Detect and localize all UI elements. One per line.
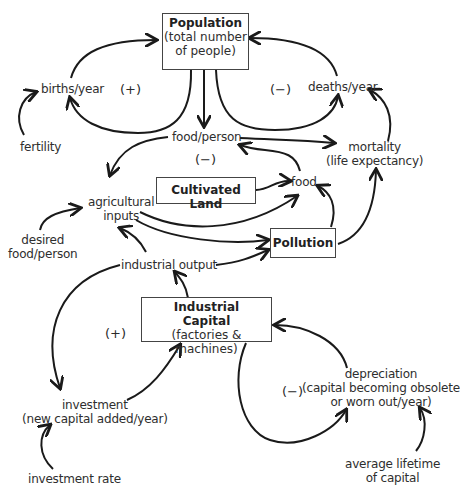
pollution-stock[interactable]: Pollution: [270, 228, 336, 258]
link-deaths-to-population: [250, 38, 337, 76]
average-lifetime-of-capital: average lifetime of capital: [345, 457, 440, 485]
agri-inputs-line-2: inputs: [103, 209, 139, 223]
link-desired-food-to-agri-inputs: [40, 208, 80, 230]
avg-lifetime-line-1: average lifetime: [345, 457, 440, 471]
industrial-output: industrial output: [121, 258, 217, 272]
industrial-capital-title-1: Industrial: [142, 300, 271, 314]
link-cultivated-land-to-food: [256, 181, 290, 190]
link-investment-rate-to-investment: [41, 425, 53, 469]
avg-lifetime-line-2: of capital: [366, 471, 420, 485]
desired-food-line-2: food/person: [8, 247, 78, 261]
population-stock[interactable]: Population (total number of people): [162, 13, 249, 70]
industrial-capital-stock[interactable]: Industrial Capital (factories & machines…: [141, 297, 272, 342]
link-population-to-deaths: [216, 70, 338, 130]
food-loop-sign: (−): [195, 152, 216, 167]
population-subtitle-2: of people): [175, 44, 236, 58]
depreciation-line-2: (capital becoming obsolete: [302, 381, 460, 395]
agri-inputs-line-1: agricultural: [88, 195, 154, 209]
mortality-line-1: mortality: [348, 140, 401, 154]
link-industrial-output-to-agri-inputs: [120, 228, 146, 252]
deaths-loop-sign: (−): [270, 82, 291, 97]
link-avg-lifetime-to-depreciation: [416, 408, 425, 451]
investment-rate: investment rate: [28, 472, 121, 486]
link-pollution-to-mortality: [338, 170, 376, 244]
link-depreciation-to-capital: [275, 325, 347, 368]
desired-food-per-person: desired food/person: [8, 233, 78, 261]
births-per-year: births/year: [41, 82, 104, 96]
population-title: Population: [163, 16, 248, 30]
agricultural-inputs: agricultural inputs: [88, 195, 154, 223]
cultivated-land-stock[interactable]: Cultivated Land: [156, 177, 256, 204]
depreciation: depreciation (capital becoming obsolete …: [302, 367, 460, 409]
investment-line-1: investment: [62, 398, 128, 412]
link-agri-inputs-to-pollution: [136, 220, 268, 242]
link-births-to-population: [71, 40, 156, 78]
link-food-person-to-agri-inputs: [110, 137, 168, 175]
desired-food-line-1: desired: [21, 233, 64, 247]
pollution-title: Pollution: [271, 236, 335, 250]
depreciation-line-1: depreciation: [345, 367, 418, 381]
investment: investment (new capital added/year): [22, 398, 168, 426]
depreciation-line-3: or worn out/year): [330, 395, 431, 409]
link-mortality-to-deaths: [370, 90, 390, 141]
food: food: [291, 175, 317, 189]
link-food-person-to-mortality: [240, 138, 334, 143]
population-subtitle-1: (total number: [164, 30, 247, 44]
link-food-to-food-person: [240, 145, 300, 171]
cultivated-land-title: Cultivated Land: [157, 183, 255, 211]
link-capital-to-industrial-output: [175, 272, 188, 298]
link-fertility-to-births: [19, 92, 36, 135]
industrial-capital-title-2: Capital: [142, 314, 271, 328]
mortality-line-2: (life expectancy): [326, 154, 423, 168]
fertility: fertility: [20, 140, 61, 154]
link-industrial-output-to-pollution: [216, 250, 268, 265]
mortality: mortality (life expectancy): [326, 140, 423, 168]
investment-loop-sign: (+): [105, 326, 126, 341]
link-pollution-to-food: [318, 186, 334, 227]
depreciation-loop-sign: (−): [282, 384, 303, 399]
investment-line-2: (new capital added/year): [22, 412, 168, 426]
link-population-to-births: [70, 70, 191, 133]
deaths-per-year: deaths/year: [308, 80, 378, 94]
births-loop-sign: (+): [120, 82, 141, 97]
food-per-person: food/person: [172, 130, 242, 144]
industrial-capital-subtitle: (factories & machines): [172, 328, 242, 356]
